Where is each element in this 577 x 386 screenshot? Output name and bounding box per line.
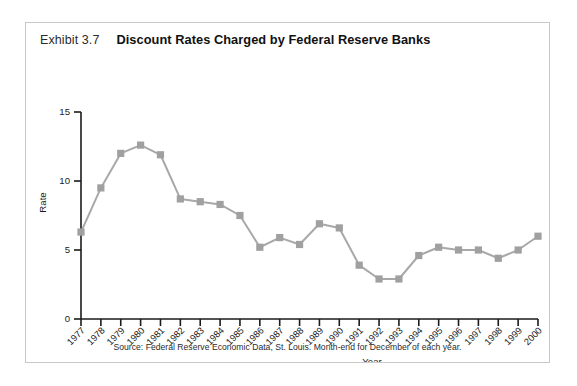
x-axis-title: Year: [362, 356, 382, 362]
chart-plot-area: 051015 197719781979198019811982198319841…: [26, 23, 549, 362]
data-point-marker: [77, 228, 84, 235]
figure-frame: Exhibit 3.7 Discount Rates Charged by Fe…: [25, 22, 550, 363]
data-point-marker: [97, 184, 104, 191]
data-point-marker: [316, 220, 323, 227]
line-chart-svg: 051015 197719781979198019811982198319841…: [26, 23, 549, 362]
data-point-marker: [336, 224, 343, 231]
y-axis-tick-label: 5: [65, 244, 70, 255]
data-point-marker: [137, 142, 144, 149]
data-point-marker: [296, 241, 303, 248]
data-point-marker: [534, 233, 541, 240]
data-point-marker: [177, 195, 184, 202]
data-point-marker: [435, 244, 442, 251]
data-point-marker: [475, 246, 482, 253]
y-axis-tick-label: 0: [65, 313, 70, 324]
data-point-marker: [495, 255, 502, 262]
y-axis-tick-label: 15: [59, 106, 70, 117]
source-note: Source: Federal Reserve Economic Data, S…: [26, 342, 549, 352]
data-point-marker: [236, 212, 243, 219]
data-point-marker: [256, 244, 263, 251]
data-point-marker: [157, 151, 164, 158]
data-point-marker: [455, 246, 462, 253]
data-series-discount-rate: [77, 142, 541, 283]
data-point-marker: [356, 262, 363, 269]
data-point-marker: [276, 234, 283, 241]
data-point-marker: [415, 252, 422, 259]
y-axis-title: Rate: [37, 192, 48, 212]
data-point-marker: [395, 275, 402, 282]
data-point-marker: [197, 198, 204, 205]
y-axis: 051015: [59, 106, 81, 324]
data-point-marker: [117, 150, 124, 157]
data-point-marker: [375, 275, 382, 282]
data-point-marker: [216, 201, 223, 208]
data-line: [81, 145, 538, 279]
y-axis-tick-label: 10: [59, 175, 70, 186]
data-point-marker: [515, 246, 522, 253]
